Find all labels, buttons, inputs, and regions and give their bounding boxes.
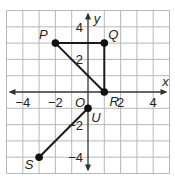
y-tick-label: −2 — [68, 118, 83, 133]
point-label-U: U — [91, 110, 101, 125]
axes — [9, 13, 168, 172]
y-axis-arrow-up-icon — [85, 13, 91, 20]
point-P — [52, 39, 60, 47]
x-axis-label: x — [161, 74, 169, 89]
y-tick-label: 2 — [76, 52, 83, 67]
y-tick-label: −4 — [68, 150, 83, 165]
coordinate-plane: xyO−4−22442−2−4PQRUS — [0, 0, 175, 182]
y-axis-arrow-down-icon — [85, 165, 91, 172]
point-label-Q: Q — [108, 27, 118, 42]
point-label-S: S — [25, 157, 34, 172]
y-tick-label: 4 — [76, 20, 83, 35]
point-label-R: R — [110, 94, 119, 109]
y-axis-label: y — [93, 11, 102, 26]
origin-label: O — [75, 95, 85, 110]
point-label-P: P — [39, 27, 48, 42]
x-axis-arrow-right-icon — [161, 89, 168, 95]
point-S — [35, 153, 43, 161]
x-tick-label: 4 — [150, 95, 157, 110]
segment-PR — [55, 43, 104, 92]
x-tick-label: −2 — [48, 95, 63, 110]
x-tick-label: −4 — [15, 95, 30, 110]
point-R — [101, 88, 109, 96]
point-Q — [101, 39, 109, 47]
